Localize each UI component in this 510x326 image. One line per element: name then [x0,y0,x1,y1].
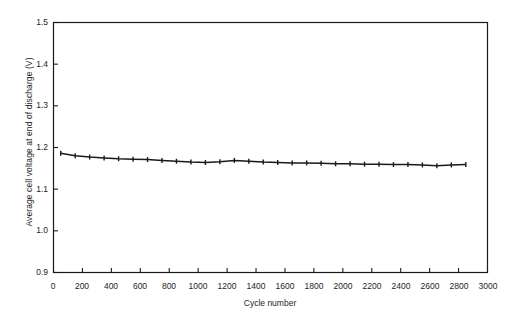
plot-frame [54,23,488,273]
data-series-layer [61,151,466,169]
axis-ticks [54,23,488,273]
plot-svg [0,0,510,326]
chart-figure: Average cell voltage at end of discharge… [0,0,510,326]
